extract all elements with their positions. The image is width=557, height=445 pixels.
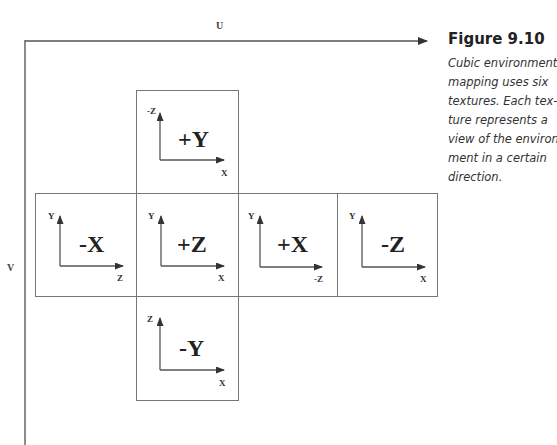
caption-line: view of the environ- — [448, 130, 556, 149]
caption-line: ment in a certain — [448, 149, 556, 168]
axis-label-vertical: Y — [48, 211, 55, 221]
axis-label-vertical: Y — [349, 211, 356, 221]
caption-line: ture represents a — [448, 111, 556, 130]
face-label-pos-y: +Y — [178, 126, 209, 153]
face-label-neg-x: -X — [79, 231, 104, 258]
figure-title: Figure 9.10 — [448, 30, 545, 48]
caption-line: direction. — [448, 168, 556, 187]
caption-line: mapping uses six — [448, 73, 556, 92]
face-label-pos-z: +Z — [177, 231, 207, 258]
face-label-neg-z: -Z — [381, 231, 405, 258]
axis-label-horizontal: -Z — [314, 274, 323, 284]
axis-label-vertical: Z — [147, 314, 153, 324]
axis-label-horizontal: Z — [117, 273, 123, 283]
axis-label-vertical: Y — [148, 211, 155, 221]
axis-label-horizontal: X — [420, 274, 427, 284]
face-label-neg-y: -Y — [179, 335, 204, 362]
caption-line: textures. Each tex- — [448, 92, 556, 111]
axis-label-vertical: Y — [248, 211, 255, 221]
axis-label-horizontal: X — [221, 168, 228, 178]
axis-label-horizontal: X — [219, 378, 226, 388]
figure-caption: Cubic environment mapping uses six textu… — [448, 54, 556, 187]
axis-label-vertical: -Z — [147, 106, 156, 116]
caption-line: Cubic environment — [448, 54, 556, 73]
face-label-pos-x: +X — [277, 231, 308, 258]
axis-label-horizontal: X — [218, 273, 225, 283]
